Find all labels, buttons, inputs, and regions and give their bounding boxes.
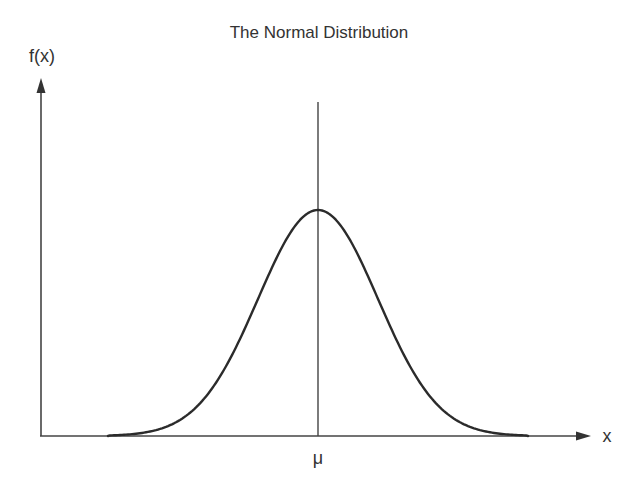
y-axis-arrow-icon — [37, 78, 46, 93]
normal-distribution-chart: The Normal Distribution f(x) x μ — [0, 0, 637, 479]
mean-tick-label: μ — [313, 448, 323, 468]
y-axis-label: f(x) — [29, 46, 55, 66]
x-axis-arrow-icon — [576, 432, 591, 441]
x-axis-label: x — [603, 426, 612, 446]
chart-title: The Normal Distribution — [230, 23, 409, 42]
